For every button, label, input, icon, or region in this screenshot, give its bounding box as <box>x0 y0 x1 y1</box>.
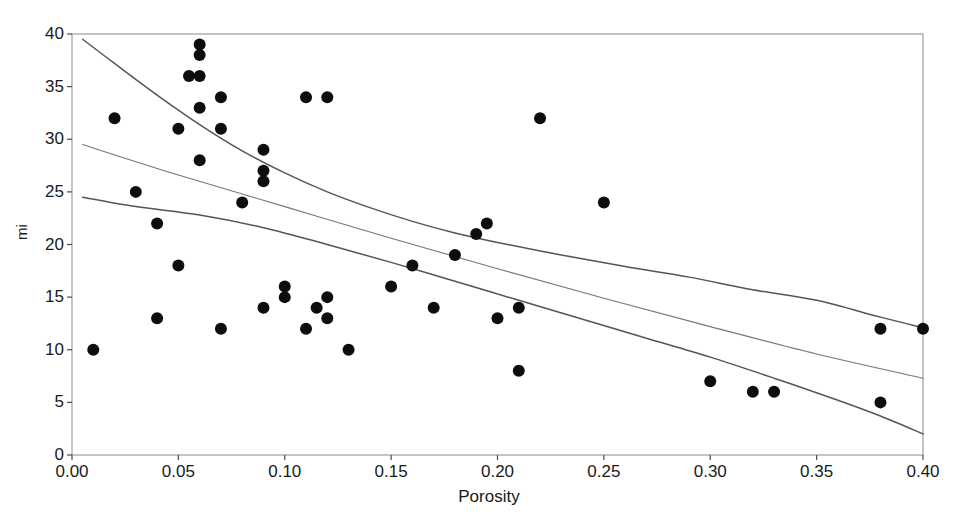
data-point <box>513 302 525 314</box>
x-axis-tick-label: 0.35 <box>800 462 833 482</box>
x-axis-tick-label: 0.25 <box>587 462 620 482</box>
data-point <box>215 123 227 135</box>
data-point <box>257 144 269 156</box>
data-point <box>279 281 291 293</box>
data-point <box>513 365 525 377</box>
data-point <box>428 302 440 314</box>
data-point <box>236 196 248 208</box>
y-axis-tick-label: 30 <box>28 129 64 149</box>
data-point <box>747 386 759 398</box>
data-point <box>704 375 716 387</box>
x-axis-tick-label: 0.20 <box>481 462 514 482</box>
plot-frame <box>72 34 923 455</box>
data-point <box>321 91 333 103</box>
data-point <box>874 323 886 335</box>
data-point <box>534 112 546 124</box>
data-point <box>151 312 163 324</box>
data-point <box>768 386 780 398</box>
data-point <box>279 291 291 303</box>
data-point <box>172 260 184 272</box>
data-point <box>109 112 121 124</box>
y-axis-tick-label: 25 <box>28 182 64 202</box>
data-point <box>194 102 206 114</box>
data-point <box>321 312 333 324</box>
y-axis-tick-label: 15 <box>28 287 64 307</box>
data-point <box>194 39 206 51</box>
data-point <box>194 70 206 82</box>
y-axis-tick-label: 10 <box>28 340 64 360</box>
y-axis-tick-label: 5 <box>28 392 64 412</box>
data-point <box>385 281 397 293</box>
data-point <box>194 49 206 61</box>
regression-line <box>83 145 923 379</box>
data-point <box>406 260 418 272</box>
x-axis-tick-label: 0.10 <box>268 462 301 482</box>
data-point <box>311 302 323 314</box>
plot-canvas <box>0 0 978 525</box>
data-point <box>151 217 163 229</box>
x-axis-tick-label: 0.40 <box>906 462 939 482</box>
data-point-group <box>87 39 929 409</box>
data-point <box>215 91 227 103</box>
data-point <box>470 228 482 240</box>
data-point <box>449 249 461 261</box>
data-point <box>917 323 929 335</box>
x-axis-tick-label: 0.05 <box>162 462 195 482</box>
data-point <box>300 91 312 103</box>
x-axis-tick-label: 0.15 <box>375 462 408 482</box>
data-point <box>257 302 269 314</box>
data-point <box>257 175 269 187</box>
data-point <box>257 165 269 177</box>
y-axis-tick-label: 20 <box>28 235 64 255</box>
data-point <box>87 344 99 356</box>
x-axis-title: Porosity <box>0 487 978 507</box>
upper-confidence-bound <box>83 39 923 327</box>
data-point <box>492 312 504 324</box>
data-point <box>194 154 206 166</box>
y-axis-tick-label: 35 <box>28 77 64 97</box>
data-point <box>300 323 312 335</box>
y-axis-tick-label: 0 <box>28 445 64 465</box>
data-point <box>215 323 227 335</box>
x-axis-tick-label: 0.00 <box>55 462 88 482</box>
scatter-plot-figure: Porosity mi 0.000.050.100.150.200.250.30… <box>0 0 978 525</box>
data-point <box>130 186 142 198</box>
data-point <box>343 344 355 356</box>
data-point <box>172 123 184 135</box>
data-point <box>481 217 493 229</box>
data-point <box>598 196 610 208</box>
data-point <box>321 291 333 303</box>
data-point <box>874 396 886 408</box>
data-point <box>183 70 195 82</box>
x-axis-tick-label: 0.30 <box>694 462 727 482</box>
y-axis-tick-label: 40 <box>28 24 64 44</box>
